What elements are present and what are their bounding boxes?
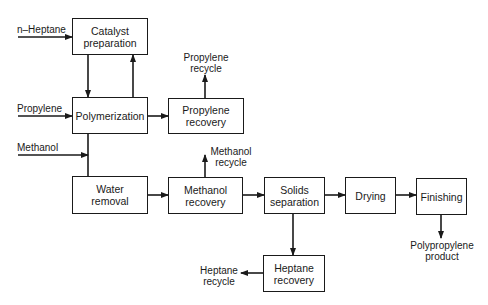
methanol-recovery-label: Methanol recovery <box>184 184 227 208</box>
finishing-label: Finishing <box>420 191 462 203</box>
methanol-recovery-box[interactable]: Methanol recovery <box>168 177 243 214</box>
propylene-recycle-label: Propylene recycle <box>180 52 232 74</box>
polymerization-label: Polymerization <box>76 110 145 122</box>
polymerization-box[interactable]: Polymerization <box>72 97 148 134</box>
drying-label: Drying <box>355 190 385 202</box>
propylene-recovery-box[interactable]: Propylene recovery <box>168 98 244 134</box>
catalyst-preparation-label: Catalyst preparation <box>83 25 136 49</box>
propylene-recovery-label: Propylene recovery <box>182 104 229 128</box>
input-methanol-label: Methanol <box>17 142 58 153</box>
heptane-recycle-label: Heptane recycle <box>198 265 240 287</box>
drying-box[interactable]: Drying <box>345 177 396 214</box>
polypropylene-product-label: Polypropylene product <box>406 240 478 262</box>
finishing-box[interactable]: Finishing <box>416 178 467 215</box>
solids-separation-box[interactable]: Solids separation <box>264 177 325 214</box>
water-removal-label: Water removal <box>91 183 128 207</box>
heptane-recovery-box[interactable]: Heptane recovery <box>263 255 325 292</box>
catalyst-preparation-box[interactable]: Catalyst preparation <box>72 18 148 55</box>
input-heptane-label: n–Heptane <box>17 24 66 35</box>
water-removal-box[interactable]: Water removal <box>72 176 148 214</box>
methanol-recycle-label: Methanol recycle <box>208 146 254 168</box>
solids-separation-label: Solids separation <box>270 184 319 208</box>
heptane-recovery-label: Heptane recovery <box>274 262 314 286</box>
input-propylene-label: Propylene <box>17 103 62 114</box>
